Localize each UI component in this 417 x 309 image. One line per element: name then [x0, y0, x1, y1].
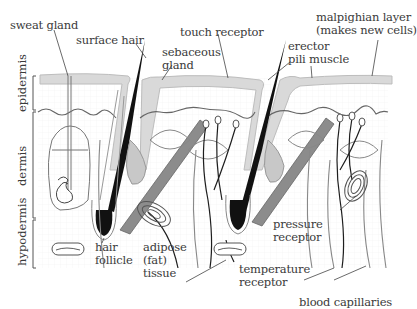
label-adipose-line3: tissue: [143, 267, 176, 279]
label-sebaceous-gland-line2: gland: [162, 59, 194, 71]
label-hair-follicle-line2: follicle: [95, 254, 133, 266]
label-surface-hair: surface hair: [76, 34, 144, 46]
label-pressure-line1: pressure: [273, 218, 323, 230]
label-adipose-line2: (fat): [143, 254, 167, 266]
label-malpighian-line1: malpighian layer: [316, 11, 411, 23]
label-touch-receptor: touch receptor: [180, 26, 264, 38]
label-temperature-line2: receptor: [239, 276, 287, 288]
label-sebaceous-gland-line1: sebaceous: [162, 46, 221, 58]
label-epidermis: epidermis: [15, 54, 29, 112]
label-hair-follicle-line1: hair: [95, 241, 118, 253]
label-erector-line1: erector: [288, 40, 329, 52]
label-erector-line2: pili muscle: [288, 53, 349, 65]
layer-brackets: [33, 76, 36, 268]
label-pressure-line2: receptor: [273, 231, 321, 243]
label-dermis: dermis: [15, 146, 29, 186]
label-adipose-line1: adipose: [143, 241, 187, 253]
label-temperature-line1: temperature: [239, 263, 310, 275]
tissue-background: [38, 78, 388, 268]
label-hypodermis: hypodermis: [15, 198, 29, 266]
label-sweat-gland: sweat gland: [10, 19, 78, 31]
label-malpighian-line2: (makes new cells): [316, 24, 417, 36]
label-blood-capillaries: blood capillaries: [299, 296, 392, 308]
